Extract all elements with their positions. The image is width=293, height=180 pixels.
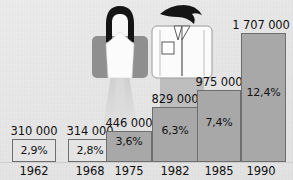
bar-year-1962: 1962 [6,165,62,178]
man-shirt [152,26,212,78]
bar-value-1990: 1 707 000 [228,19,293,31]
bar-year-1990: 1990 [232,165,290,178]
man-pocket [162,42,174,54]
bar-percent-1990: 12,4% [242,87,285,99]
bar-percent-1962: 2,9% [13,145,55,157]
bar-percent-1968: 2,8% [69,145,111,157]
bar-percent-1985: 7,4% [198,117,240,129]
man-hair [160,5,202,24]
bar-value-1975: 446 000 [100,117,158,129]
woman-face [112,14,128,38]
bar-1985[interactable]: 7,4% [197,90,241,162]
bar-percent-1975: 3,6% [107,136,151,148]
woman-torso [106,32,134,78]
bar-value-1962: 310 000 [6,125,62,137]
chart-baseline [0,162,293,163]
bar-value-1985: 975 000 [190,76,248,88]
man-collar-right [182,26,190,40]
infographic-bar-chart: 2,9% 310 000 1962 2,8% 314 000 1968 3,6%… [0,0,293,180]
bar-value-1982: 829 000 [145,93,205,105]
bar-1962[interactable]: 2,9% [12,139,56,162]
bar-percent-1982: 6,3% [153,125,197,137]
bar-1982[interactable]: 6,3% [152,107,198,162]
man-collar-left [174,26,182,40]
woman-shoulders [92,36,148,78]
bar-1975[interactable]: 3,6% [106,131,152,162]
bar-1990[interactable]: 12,4% [241,33,286,162]
woman-hair [106,6,134,42]
